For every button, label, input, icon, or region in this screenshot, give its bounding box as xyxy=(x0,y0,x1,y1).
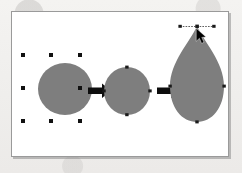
path-node-bottom[interactable] xyxy=(125,113,128,116)
diagram-svg xyxy=(12,12,230,158)
figure-canvas: Circle with selection handles Circle con… xyxy=(12,12,228,156)
control-handle-left-grip[interactable] xyxy=(178,25,181,28)
teardrop-node-bottom[interactable] xyxy=(195,120,198,123)
control-handle-right-grip[interactable] xyxy=(212,25,215,28)
selection-handle-bottom-right[interactable] xyxy=(78,119,82,123)
selection-handle-top-right[interactable] xyxy=(78,53,82,57)
teardrop-node-apex[interactable] xyxy=(195,25,199,28)
selection-handle-bottom-left[interactable] xyxy=(21,119,25,123)
circle-shape[interactable] xyxy=(38,63,92,115)
selection-handle-middle-left[interactable] xyxy=(21,86,25,90)
step-3-teardrop-result[interactable] xyxy=(168,25,225,124)
path-node-right[interactable] xyxy=(148,89,151,92)
selection-handle-bottom-center[interactable] xyxy=(49,119,53,123)
step-2-path-with-nodes[interactable] xyxy=(102,66,151,117)
path-node-top[interactable] xyxy=(125,66,128,69)
selection-handle-top-left[interactable] xyxy=(21,53,25,57)
teardrop-node-right[interactable] xyxy=(222,85,225,88)
path-circle-shape[interactable] xyxy=(104,67,150,115)
teardrop-node-left[interactable] xyxy=(168,85,171,88)
path-node-left[interactable] xyxy=(102,89,105,92)
figure-frame: Circle with selection handles Circle con… xyxy=(11,11,229,157)
step-1-selected-circle[interactable] xyxy=(21,53,92,123)
selection-handle-top-center[interactable] xyxy=(49,53,53,57)
selection-handle-middle-right[interactable] xyxy=(78,86,82,90)
